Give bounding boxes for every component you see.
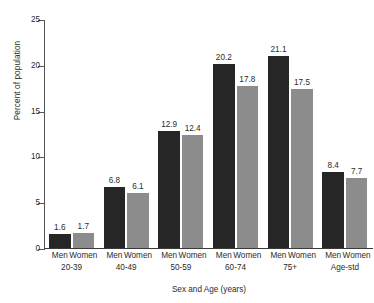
- x-axis-group-label: 75+: [262, 263, 319, 272]
- bar-value-label: 1.6: [54, 224, 65, 232]
- bar-value-label: 12.4: [185, 125, 201, 133]
- bar-value-label: 7.7: [351, 168, 362, 176]
- x-axis-title: Sex and Age (years): [45, 285, 373, 294]
- bar: 17.8: [237, 86, 259, 249]
- x-axis-group-label: Age-std: [316, 263, 373, 272]
- bar: 12.9: [158, 131, 180, 249]
- bar-value-label: 8.4: [327, 162, 338, 170]
- x-axis-sex-label: Women: [342, 251, 372, 260]
- bar: 8.4: [322, 172, 344, 249]
- y-axis-tick-label: 10: [0, 152, 40, 161]
- y-axis-title: Percent of population: [13, 1, 22, 161]
- x-axis-sex-label: Women: [123, 251, 153, 260]
- bar: 1.6: [49, 234, 71, 249]
- bar: 17.5: [291, 89, 313, 249]
- x-axis-sex-label: Women: [287, 251, 317, 260]
- y-axis-tick-label: 0: [0, 244, 40, 253]
- x-axis-sex-label: Women: [178, 251, 208, 260]
- bar-value-label: 6.8: [109, 177, 120, 185]
- x-axis-group-label: 50-59: [152, 263, 209, 272]
- bar-value-label: 12.9: [161, 121, 177, 129]
- bar-value-label: 1.7: [78, 223, 89, 231]
- x-axis-tick-labels: MenWomen20-39MenWomen40-49MenWomen50-59M…: [45, 251, 373, 283]
- bar-value-label: 17.5: [294, 79, 310, 87]
- y-axis-tick-label: 5: [0, 198, 40, 207]
- x-axis-group-label: 60-74: [207, 263, 264, 272]
- x-axis-sex-label: Women: [69, 251, 99, 260]
- y-axis-tick-label: 15: [0, 107, 40, 116]
- bar: 12.4: [182, 135, 204, 249]
- bar: 7.7: [346, 178, 368, 249]
- bar: 21.1: [268, 56, 290, 249]
- y-axis-tick-label: 20: [0, 61, 40, 70]
- bar-value-label: 20.2: [216, 54, 232, 62]
- bar-chart-figure: Percent of population 0510152025 1.61.76…: [0, 0, 374, 303]
- bar: 6.1: [127, 193, 149, 249]
- x-axis-group-label: 40-49: [98, 263, 155, 272]
- x-axis-group-label: 20-39: [43, 263, 100, 272]
- x-axis-sex-label: Women: [233, 251, 263, 260]
- x-axis-line: [44, 248, 373, 249]
- bar: 20.2: [213, 64, 235, 249]
- plot-area: 1.61.76.86.112.912.420.217.821.117.58.47…: [45, 20, 373, 249]
- bar-value-label: 6.1: [132, 183, 143, 191]
- bar-value-label: 17.8: [239, 76, 255, 84]
- y-axis-tick-label: 25: [0, 15, 40, 24]
- bar: 1.7: [73, 233, 95, 249]
- bar: 6.8: [104, 187, 126, 249]
- bar-value-label: 21.1: [271, 46, 287, 54]
